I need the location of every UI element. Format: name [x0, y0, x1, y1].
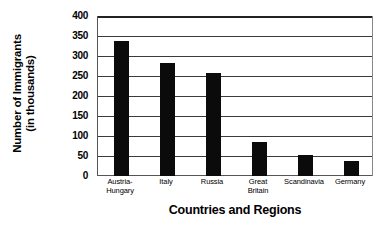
bar: [206, 73, 221, 176]
y-axis-title-line2: (in thousands): [23, 34, 36, 153]
y-tick-label-350: 350: [48, 31, 88, 41]
y-axis-title-line1: Number of Immigrants: [11, 34, 23, 153]
gridline-0: [98, 175, 372, 176]
gridline-100: [98, 136, 372, 137]
gridline-150: [98, 116, 372, 117]
x-tick-label: Germany: [327, 178, 373, 187]
y-tick-label-100: 100: [48, 131, 88, 141]
y-axis-tick-labels: 400350300250200150100500: [48, 10, 92, 180]
x-tick-label: Austria- Hungary: [97, 178, 143, 195]
y-tick-label-300: 300: [48, 51, 88, 61]
gridline-200: [98, 96, 372, 97]
y-tick-label-150: 150: [48, 111, 88, 121]
bar: [344, 161, 359, 176]
plot-area: [97, 16, 373, 176]
x-tick-label: Italy: [143, 178, 189, 187]
y-tick-label-250: 250: [48, 71, 88, 81]
x-axis-title: Countries and Regions: [97, 203, 373, 217]
gridline-350: [98, 36, 372, 37]
bar: [298, 155, 313, 176]
y-tick-label-400: 400: [48, 11, 88, 21]
gridline-400: [98, 16, 372, 18]
y-tick-label-200: 200: [48, 91, 88, 101]
bar-chart: Number of Immigrants (in thousands) 4003…: [0, 0, 391, 226]
x-tick-label: Scandinavia: [281, 178, 327, 187]
x-tick-label: Great Britain: [235, 178, 281, 195]
x-tick-label: Russia: [189, 178, 235, 187]
y-tick-label-50: 50: [48, 151, 88, 161]
bar: [160, 63, 175, 176]
gridline-300: [98, 56, 372, 57]
y-tick-label-0: 0: [48, 171, 88, 181]
bar: [252, 142, 267, 176]
x-axis-tick-labels: Austria- HungaryItalyRussiaGreat Britain…: [97, 178, 373, 202]
bar: [114, 41, 129, 176]
gridline-250: [98, 76, 372, 77]
gridline-50: [98, 156, 372, 157]
y-axis-title: Number of Immigrants (in thousands): [0, 0, 46, 186]
